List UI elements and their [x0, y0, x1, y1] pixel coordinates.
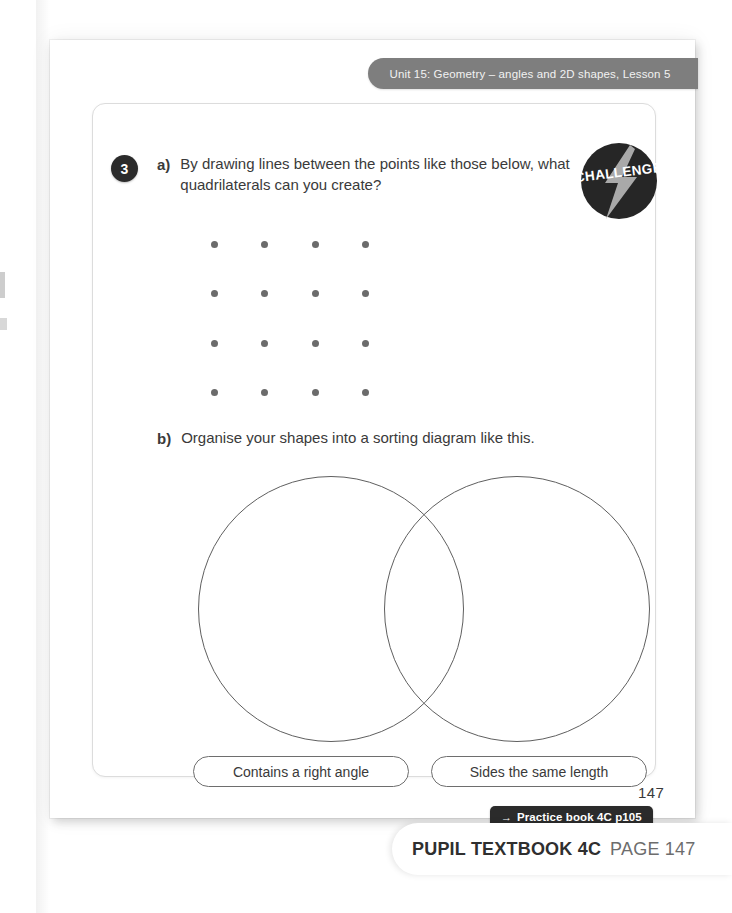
question-part-a: a) By drawing lines between the points l…	[157, 154, 578, 195]
venn-label-group: Contains a right angle Sides the same le…	[193, 756, 663, 787]
edge-bleed-mark	[0, 318, 7, 330]
grid-dot	[211, 340, 218, 347]
question-number-badge: 3	[111, 155, 138, 182]
unit-header-label: Unit 15: Geometry – angles and 2D shapes…	[389, 68, 676, 80]
grid-dot	[362, 340, 369, 347]
caption-inner: PUPIL TEXTBOOK 4C PAGE 147	[392, 839, 695, 860]
part-a-text: By drawing lines between the points like…	[180, 154, 578, 195]
grid-dot	[362, 290, 369, 297]
grid-dot	[261, 340, 268, 347]
edge-bleed-mark	[0, 272, 5, 298]
venn-label-right: Sides the same length	[431, 756, 647, 787]
grid-dot	[312, 340, 319, 347]
unit-header-band: Unit 15: Geometry – angles and 2D shapes…	[368, 58, 698, 89]
page-folio-number: 147	[638, 784, 664, 801]
grid-dot	[211, 389, 218, 396]
grid-dot	[362, 389, 369, 396]
part-b-text: Organise your shapes into a sorting diag…	[181, 428, 535, 449]
caption-strip: PUPIL TEXTBOOK 4C PAGE 147	[392, 823, 732, 875]
scanned-page-root: Unit 15: Geometry – angles and 2D shapes…	[0, 0, 732, 913]
practice-book-label: Practice book 4C p105	[517, 811, 642, 823]
caption-page-number: PAGE 147	[610, 839, 695, 860]
grid-dot	[211, 241, 218, 248]
grid-dot	[312, 389, 319, 396]
caption-book-title: PUPIL TEXTBOOK 4C	[412, 839, 601, 860]
part-a-label: a)	[157, 156, 170, 173]
grid-dot	[261, 290, 268, 297]
challenge-badge: CHALLENGE	[575, 137, 663, 225]
venn-circle-right	[384, 476, 650, 742]
grid-dot	[261, 241, 268, 248]
question-3-row: 3 a) By drawing lines between the points…	[111, 154, 581, 195]
question-card: CHALLENGE 3 a) By drawing lines between …	[92, 103, 656, 777]
grid-dot	[362, 241, 369, 248]
textbook-page: Unit 15: Geometry – angles and 2D shapes…	[50, 40, 695, 818]
page-gutter-shadow	[36, 0, 50, 913]
grid-dot	[312, 241, 319, 248]
venn-label-left: Contains a right angle	[193, 756, 409, 787]
grid-dot	[211, 290, 218, 297]
sorting-diagram	[198, 476, 650, 746]
part-b-label: b)	[157, 430, 171, 447]
arrow-right-icon: →	[501, 812, 512, 823]
grid-dot	[312, 290, 319, 297]
grid-dot	[261, 389, 268, 396]
dot-grid	[211, 241, 371, 396]
question-part-b: b) Organise your shapes into a sorting d…	[157, 428, 535, 449]
